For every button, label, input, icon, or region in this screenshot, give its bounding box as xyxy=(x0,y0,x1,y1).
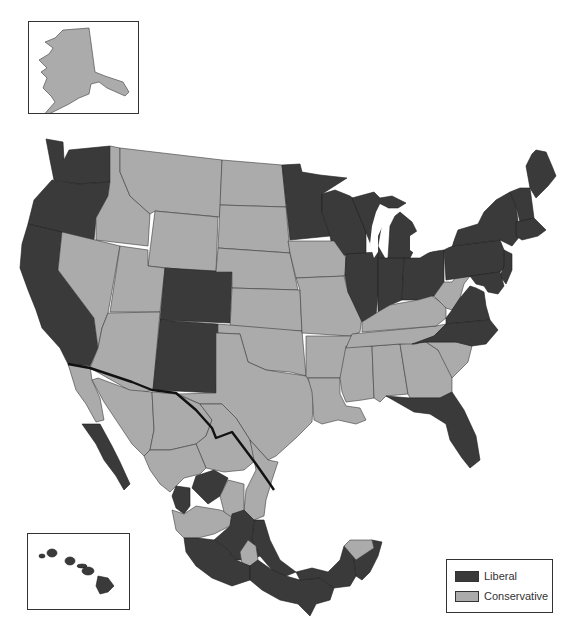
conservative-swatch xyxy=(455,591,479,602)
alaska-inset xyxy=(28,21,139,114)
state-iowa xyxy=(288,241,346,278)
state-new-mexico xyxy=(153,320,218,393)
state-massachusetts-ri-ct xyxy=(516,218,546,240)
state-washington xyxy=(46,139,110,184)
legend-label-conservative: Conservative xyxy=(484,590,548,602)
state-south-dakota xyxy=(218,205,290,253)
hawaii-inset xyxy=(27,533,130,610)
hawaii-shape xyxy=(28,534,129,609)
state-nayarit xyxy=(172,486,190,514)
legend-item-liberal: Liberal xyxy=(455,569,517,583)
state-oaxaca-chiapas xyxy=(250,560,334,616)
state-florida xyxy=(386,392,480,468)
state-north-dakota xyxy=(220,160,286,207)
state-mississippi xyxy=(340,346,374,402)
state-new-york xyxy=(452,192,520,246)
state-colorado xyxy=(160,268,232,323)
liberal-swatch xyxy=(455,571,479,582)
map-legend: Liberal Conservative xyxy=(446,559,553,613)
legend-label-liberal: Liberal xyxy=(484,570,517,582)
state-baja-california-sur xyxy=(82,424,130,490)
state-wyoming xyxy=(148,211,218,273)
legend-item-conservative: Conservative xyxy=(455,589,548,603)
state-kansas xyxy=(230,288,302,331)
alaska-shape xyxy=(29,22,138,113)
